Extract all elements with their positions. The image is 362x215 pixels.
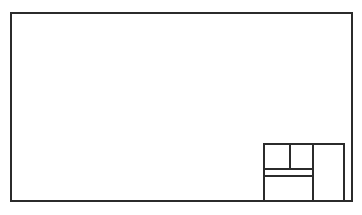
drawing-sheet xyxy=(0,0,362,215)
sheet-background xyxy=(0,0,362,215)
drawing-canvas xyxy=(0,0,362,215)
